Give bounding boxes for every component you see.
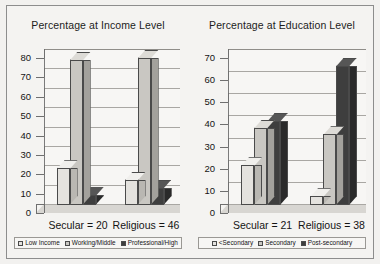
y-tick-mark <box>220 147 228 148</box>
legend-swatch-icon <box>301 241 306 246</box>
bar-group <box>112 49 180 205</box>
legend-swatch-icon <box>18 241 23 246</box>
y-tick-mark <box>36 77 44 78</box>
page-title-education: Percentage at Education Level <box>190 19 374 31</box>
y-tick-label: 20 <box>204 164 220 174</box>
plot-floor-education <box>220 204 366 213</box>
legend-label: Post-secondary <box>308 240 352 246</box>
y-tick-mark <box>36 174 44 175</box>
y-tick-label: 10 <box>20 189 36 199</box>
legend-label: Secondary <box>265 240 296 246</box>
bar-group <box>44 49 112 205</box>
y-tick-label: 50 <box>20 111 36 121</box>
bar-front-face <box>310 196 323 205</box>
y-tick-label: 40 <box>204 120 220 130</box>
legend-swatch-icon <box>258 241 263 246</box>
page-title-income: Percentage at Income Level <box>6 19 190 31</box>
bar-group <box>297 49 366 205</box>
legend-swatch-icon <box>212 241 217 246</box>
legend-item[interactable]: <Secondary <box>212 240 253 246</box>
plot-floor-income <box>36 204 180 213</box>
legend-education: <SecondarySecondaryPost-secondary <box>198 237 366 249</box>
x-axis-label: Religious = 38 <box>298 219 365 231</box>
bar-front-face <box>57 168 70 205</box>
bar-side-face <box>83 60 91 205</box>
y-tick-riser <box>44 204 45 213</box>
bar-low-income <box>125 180 138 205</box>
x-axis-label: Religious = 46 <box>113 219 180 231</box>
y-tick-mark <box>36 97 44 98</box>
bars-income <box>44 49 180 205</box>
y-axis-riser-education <box>220 204 221 213</box>
bar-group <box>228 49 297 205</box>
bar-secondary <box>310 196 323 205</box>
legend-label: Professional/High <box>128 240 178 246</box>
bar-side-face <box>96 195 104 205</box>
chart-panel-education: Percentage at Education Level 0102030405… <box>190 5 374 259</box>
y-tick-mark <box>220 213 228 214</box>
y-tick-mark <box>36 155 44 156</box>
y-tick-label: 80 <box>20 53 36 63</box>
plot-area-education: 010203040506070 <box>220 49 366 213</box>
legend-item[interactable]: Working/Middle <box>65 240 116 246</box>
y-tick-mark <box>36 194 44 195</box>
x-axis-labels-education: Secular = 21Religious = 38 <box>220 219 366 233</box>
y-tick-label: 50 <box>204 98 220 108</box>
bar-front-face <box>241 165 254 205</box>
bar-side-face <box>280 121 288 205</box>
legend-label: Low Income <box>25 240 59 246</box>
y-tick-label: 40 <box>20 131 36 141</box>
legend-label: <Secondary <box>219 240 253 246</box>
y-tick-mark <box>220 124 228 125</box>
bar-front-face <box>125 180 138 205</box>
plot-area-income: 01020304050607080 <box>36 49 180 213</box>
bar-side-face <box>349 66 357 206</box>
y-axis-riser-income <box>36 204 37 213</box>
y-tick-label: 20 <box>20 170 36 180</box>
legend-item[interactable]: Secondary <box>258 240 296 246</box>
charts-container: Percentage at Income Level 0102030405060… <box>6 5 374 259</box>
bar-side-face <box>336 134 344 205</box>
legend-item[interactable]: Low Income <box>18 240 59 246</box>
y-tick-mark <box>220 58 228 59</box>
y-tick-label: 70 <box>204 53 220 63</box>
chart-panel-income: Percentage at Income Level 0102030405060… <box>6 5 190 259</box>
y-tick-mark <box>220 191 228 192</box>
y-tick-label: 0 <box>26 208 36 218</box>
legend-item[interactable]: Professional/High <box>121 240 178 246</box>
bar-secondary <box>241 165 254 205</box>
y-tick-mark <box>36 213 44 214</box>
y-tick-label: 0 <box>210 208 220 218</box>
legend-label: Working/Middle <box>72 240 116 246</box>
x-axis-labels-income: Secular = 20Religious = 46 <box>36 219 180 233</box>
y-tick-label: 10 <box>204 186 220 196</box>
legend-swatch-icon <box>121 241 126 246</box>
bar-side-face <box>151 58 159 205</box>
legend-swatch-icon <box>65 241 70 246</box>
y-tick-label: 30 <box>204 142 220 152</box>
y-tick-mark <box>220 102 228 103</box>
legend-income: Low IncomeWorking/MiddleProfessional/Hig… <box>14 237 182 249</box>
y-tick-mark <box>220 169 228 170</box>
bars-education <box>228 49 366 205</box>
y-tick-label: 70 <box>20 73 36 83</box>
y-tick-mark <box>36 58 44 59</box>
y-tick-label: 60 <box>204 75 220 85</box>
legend-item[interactable]: Post-secondary <box>301 240 352 246</box>
bar-side-face <box>267 128 275 206</box>
y-tick-mark <box>220 80 228 81</box>
x-axis-label: Secular = 21 <box>233 219 292 231</box>
chart-page: Percentage at Income Level 0102030405060… <box>0 0 380 264</box>
x-axis-label: Secular = 20 <box>48 219 107 231</box>
y-tick-mark <box>36 116 44 117</box>
y-tick-mark <box>36 136 44 137</box>
bar-side-face <box>164 188 172 205</box>
y-tick-label: 30 <box>20 150 36 160</box>
bar-low-income <box>57 168 70 205</box>
y-tick-label: 60 <box>20 92 36 102</box>
y-tick-riser <box>228 204 229 213</box>
